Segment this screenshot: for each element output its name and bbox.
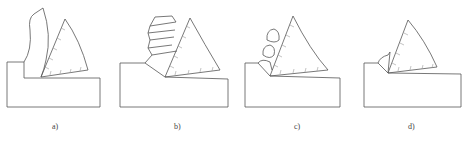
panel-label-a: a) [52, 122, 58, 131]
tool [165, 18, 220, 77]
panel-label-c: c) [294, 122, 300, 131]
workpiece [7, 62, 100, 107]
tool [270, 16, 328, 76]
tool-hatch [392, 33, 433, 71]
tool-hatch [274, 25, 318, 74]
chip-small [378, 52, 390, 73]
chip-segments [145, 16, 177, 63]
panel-label-d: d) [408, 122, 415, 131]
tool [388, 20, 437, 73]
tool-hatch [45, 28, 81, 75]
panel-b [120, 16, 228, 107]
workpiece [245, 63, 340, 107]
workpiece [120, 63, 228, 107]
panel-c [245, 16, 340, 107]
panel-label-b: b) [174, 122, 181, 131]
chip-fragments [258, 29, 279, 70]
panel-d [364, 20, 461, 107]
chip-continuous [24, 8, 48, 77]
chip-formation-diagram [0, 0, 463, 146]
panel-a [7, 8, 100, 107]
